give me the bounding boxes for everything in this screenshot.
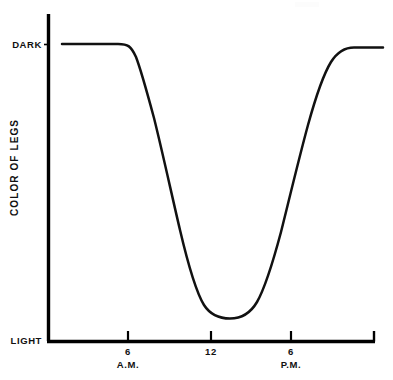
y-axis-light-label: LIGHT bbox=[11, 335, 43, 346]
x-tick-label-6am-period: A.M. bbox=[117, 359, 139, 370]
data-curve-color-of-legs bbox=[62, 44, 383, 319]
chart-plot-area: COLOR OF LEGS DARK LIGHT 6 A.M. 12 6 P.M… bbox=[0, 0, 393, 380]
y-axis-dark-label: DARK bbox=[12, 39, 42, 50]
x-tick-label-6pm-period: P.M. bbox=[281, 359, 302, 370]
x-tick-label-6am-number: 6 bbox=[125, 346, 131, 357]
x-tick-label-12-number: 12 bbox=[205, 346, 217, 357]
y-axis-title: COLOR OF LEGS bbox=[9, 119, 20, 216]
x-tick-label-6pm-number: 6 bbox=[288, 346, 294, 357]
chart-figure: COLOR OF LEGS DARK LIGHT 6 A.M. 12 6 P.M… bbox=[0, 0, 393, 380]
